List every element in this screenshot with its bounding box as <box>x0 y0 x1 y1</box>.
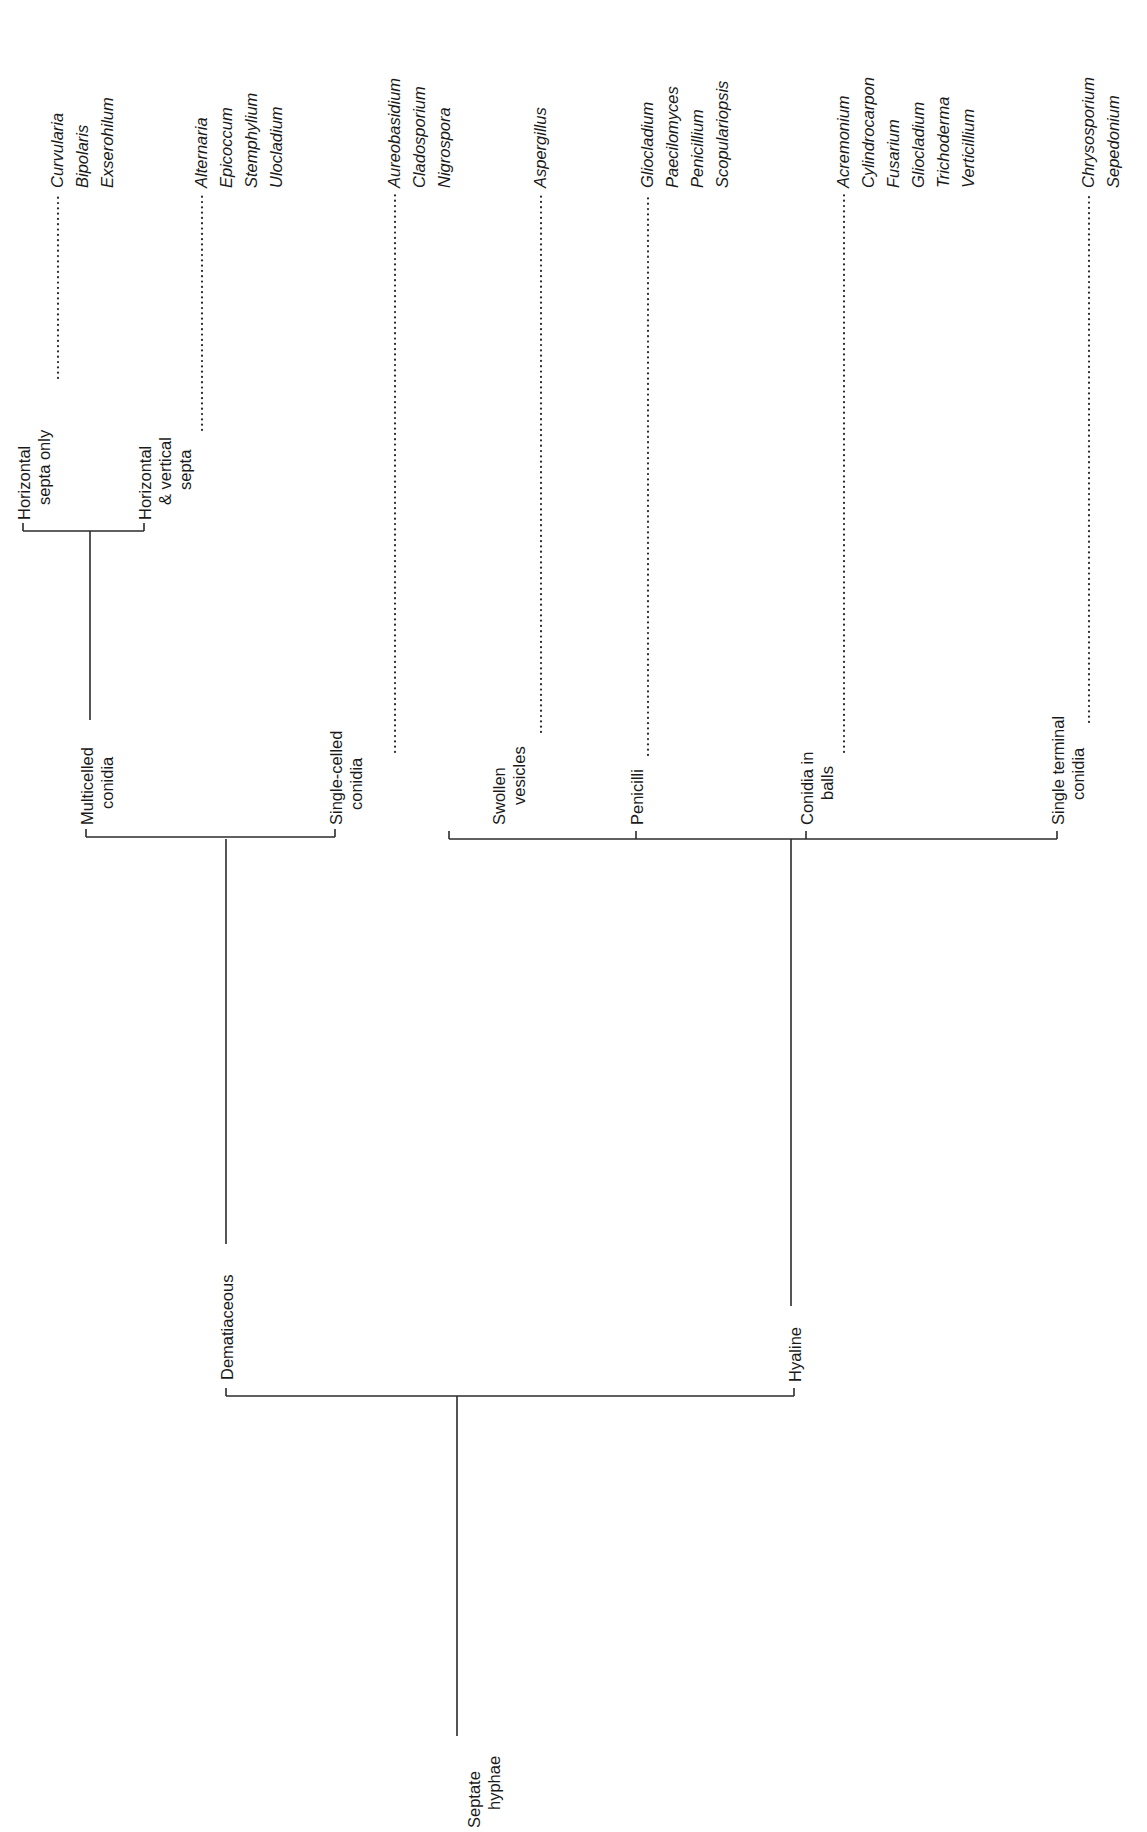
bracket-hyaline <box>449 831 1057 839</box>
multicelled-label-line-1: Multicelled <box>78 747 96 825</box>
node-hyaline: Hyaline <box>786 839 804 1382</box>
single-terminal-label-line-1: Single terminal <box>1049 716 1067 825</box>
genus-bipolaris: Bipolaris <box>73 125 91 188</box>
swollen-label-line-1: Swollen <box>490 767 508 825</box>
node-horizontal-septa-only: Horizontal septa only Curvularia Bipolar… <box>15 97 116 520</box>
conidia-balls-label-line-2: balls <box>818 766 836 800</box>
horizontal-only-label-line-1: Horizontal <box>15 446 33 520</box>
genus-trichoderma: Trichoderma <box>934 97 952 188</box>
multicelled-label-line-2: conidia <box>98 756 116 809</box>
genus-gliocladium-2: Gliocladium <box>909 102 927 188</box>
genus-sepedonium: Sepedonium <box>1104 95 1122 188</box>
single-terminal-label-line-2: conidia <box>1069 747 1087 800</box>
genus-penicillium: Penicillium <box>688 109 706 188</box>
swollen-label-line-2: vesicles <box>510 746 528 805</box>
bracket-root <box>226 1388 794 1396</box>
node-septate-hyphae: Septate hyphae <box>457 1396 503 1828</box>
node-dematiaceous: Dematiaceous <box>218 839 236 1380</box>
genera-horizontal-only: Curvularia Bipolaris Exserohilum <box>48 97 116 188</box>
hyaline-label: Hyaline <box>786 1327 804 1382</box>
genus-epicoccum: Epicoccum <box>217 107 235 188</box>
genus-exserohilum: Exserohilum <box>98 97 116 188</box>
horizontal-vertical-label-line-1: Horizontal <box>136 446 154 520</box>
conidia-balls-label-line-1: Conidia in <box>798 752 816 825</box>
genus-ulocladium: Ulocladium <box>267 106 285 188</box>
genus-alternaria: Alternaria <box>192 117 210 189</box>
genus-nigrospora: Nigrospora <box>435 107 453 188</box>
dematiaceous-label: Dematiaceous <box>218 1275 236 1380</box>
genus-cladosporium: Cladosporium <box>410 86 428 188</box>
horizontal-vertical-label-line-3: septa <box>176 449 194 490</box>
genera-conidia-balls: Acremonium Cylindrocarpon Fusarium Glioc… <box>834 77 977 189</box>
node-single-celled-conidia: Single-celled conidia Aureobasidium Clad… <box>327 78 453 825</box>
septate-hyphae-dendrogram: Septate hyphae Dematiaceous Hyaline Mult… <box>0 0 1147 1832</box>
genus-gliocladium-1: Gliocladium <box>638 102 656 188</box>
node-swollen-vesicles: Swollen vesicles Aspergillus <box>490 107 549 825</box>
genus-fusarium: Fusarium <box>884 119 902 188</box>
genera-single-celled: Aureobasidium Cladosporium Nigrospora <box>385 78 453 189</box>
genus-verticillium: Verticillium <box>959 109 977 188</box>
genera-swollen: Aspergillus <box>531 107 549 189</box>
root-label-line-1: Septate <box>465 1771 483 1828</box>
genera-penicilli: Gliocladium Paecilomyces Penicillium Sco… <box>638 81 731 188</box>
root-label-line-2: hyphae <box>485 1756 503 1810</box>
horizontal-only-label-line-2: septa only <box>35 429 53 505</box>
genus-stemphylium: Stemphylium <box>242 93 260 188</box>
node-horizontal-vertical-septa: Horizontal & vertical septa Alternaria E… <box>136 93 285 520</box>
node-single-terminal-conidia: Single terminal conidia Chrysosporium Se… <box>1049 77 1122 825</box>
node-penicilli: Penicilli Gliocladium Paecilomyces Penic… <box>628 81 731 825</box>
bracket-dematiaceous <box>86 829 335 837</box>
genus-paecilomyces: Paecilomyces <box>663 86 681 188</box>
single-celled-label-line-1: Single-celled <box>327 731 345 825</box>
genus-curvularia: Curvularia <box>48 113 66 188</box>
genus-cylindrocarpon: Cylindrocarpon <box>859 77 877 188</box>
bracket-septa <box>23 523 144 531</box>
genera-horizontal-vertical: Alternaria Epicoccum Stemphylium Uloclad… <box>192 93 285 189</box>
genus-aspergillus: Aspergillus <box>531 107 549 189</box>
genus-acremonium: Acremonium <box>834 95 852 189</box>
horizontal-vertical-label-line-2: & vertical <box>156 437 174 505</box>
single-celled-label-line-2: conidia <box>347 757 365 810</box>
penicilli-label: Penicilli <box>628 769 646 825</box>
genus-aureobasidium: Aureobasidium <box>385 78 403 189</box>
genus-scopulariopsis: Scopulariopsis <box>713 81 731 188</box>
node-multicelled-conidia: Multicelled conidia <box>78 531 116 825</box>
node-conidia-in-balls: Conidia in balls Acremonium Cylindrocarp… <box>798 77 977 825</box>
genera-single-terminal: Chrysosporium Sepedonium <box>1079 77 1122 188</box>
genus-chrysosporium: Chrysosporium <box>1079 77 1097 188</box>
